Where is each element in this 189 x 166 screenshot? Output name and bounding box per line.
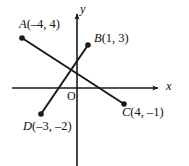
- coordinate-plane-figure: A(–4, 4) B(1, 3) C(4, –1) D(–3, –2) x y …: [0, 0, 189, 166]
- point-label-c-coords: (4, –1): [130, 105, 163, 119]
- point-label-d-coords: (–3, –2): [32, 119, 72, 133]
- point-label-b-name: B: [94, 31, 102, 45]
- point-label-c: C(4, –1): [122, 106, 164, 119]
- point-label-b-coords: (1, 3): [102, 31, 129, 45]
- point-marker-a: [19, 35, 25, 41]
- point-label-d-name: D: [23, 119, 32, 133]
- origin-label: O: [67, 90, 76, 102]
- y-axis-label: y: [80, 3, 86, 16]
- point-label-d: D(–3, –2): [23, 120, 72, 133]
- point-label-a-coords: (–4, 4): [27, 17, 60, 31]
- point-marker-b: [85, 42, 91, 48]
- x-axis-label: x: [166, 80, 172, 93]
- point-label-a-name: A: [19, 17, 27, 31]
- point-label-a: A(–4, 4): [19, 18, 60, 31]
- point-marker-d: [38, 111, 44, 117]
- point-label-b: B(1, 3): [94, 32, 129, 45]
